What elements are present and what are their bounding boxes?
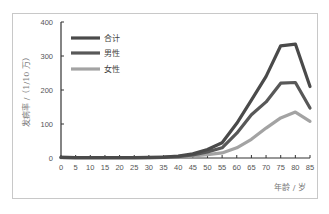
x-tick-label: 70 [262,163,270,172]
y-tick-label: 400 [40,18,53,27]
x-tick-label: 10 [86,163,94,172]
y-tick-label: 200 [40,86,53,95]
y-tick-label: 100 [40,120,53,129]
y-tick-label: 300 [40,52,53,61]
x-tick-label: 25 [130,163,138,172]
y-axis-title: 发病率 /（1/10 万） [21,53,31,127]
x-tick-label: 75 [277,163,285,172]
x-tick-label: 60 [233,163,241,172]
x-tick-label: 0 [59,163,63,172]
x-tick-label: 20 [115,163,123,172]
x-tick-label: 80 [291,163,299,172]
x-tick-label: 30 [145,163,153,172]
x-tick-label: 85 [306,163,314,172]
x-axis-title: 年龄 / 岁 [274,182,306,192]
x-tick-label: 45 [189,163,197,172]
legend-label: 男性 [104,48,120,58]
x-tick-label: 15 [101,163,109,172]
x-tick-label: 5 [74,163,78,172]
x-tick-label: 55 [218,163,226,172]
x-tick-label: 40 [174,163,182,172]
legend-label: 女性 [104,64,120,74]
x-tick-label: 35 [159,163,167,172]
x-tick-label: 65 [247,163,255,172]
legend: 合计男性女性 [71,33,120,74]
x-tick-label: 50 [203,163,211,172]
legend-label: 合计 [104,33,120,43]
chart: 0100200300400051015202530354045505560657… [0,0,329,214]
y-tick-label: 0 [49,154,53,163]
